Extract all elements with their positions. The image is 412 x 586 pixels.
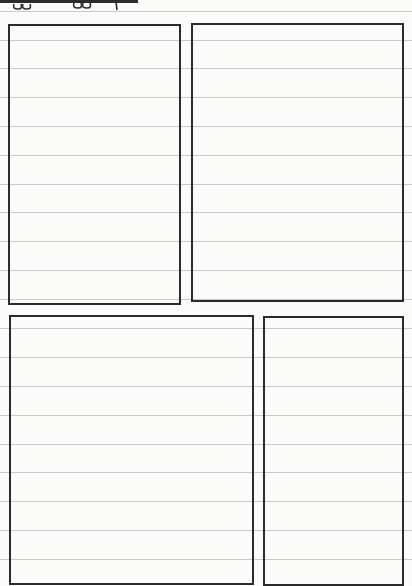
panel-4 (263, 316, 404, 586)
panel-3 (9, 315, 254, 585)
panel-2 (191, 23, 404, 302)
panel-1 (8, 24, 181, 305)
header-scribble (0, 0, 160, 22)
